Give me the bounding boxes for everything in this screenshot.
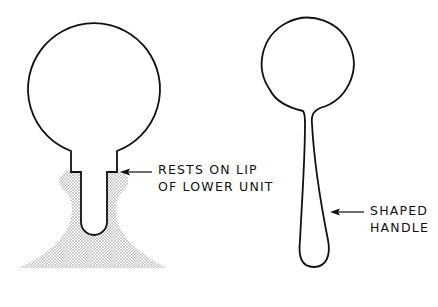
callout-rests-line1: RESTS ON LIP [158,161,274,178]
callout-shaped-line1: SHAPED [370,202,429,219]
diagram-canvas [0,0,438,307]
left-bulb-outline [28,23,160,235]
shaped-handle-arrow [330,209,364,216]
callout-shaped-line2: HANDLE [370,219,429,236]
callout-rests-line2: OF LOWER UNIT [158,178,274,195]
callout-rests-on-lip: RESTS ON LIP OF LOWER UNIT [158,161,274,195]
callout-shaped-handle: SHAPED HANDLE [370,202,429,236]
right-bulb-outline [262,18,354,267]
